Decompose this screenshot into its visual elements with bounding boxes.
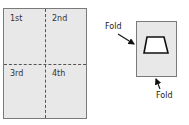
horizontal-fold-line bbox=[4, 64, 86, 65]
quadrant-label-3rd: 3rd bbox=[10, 70, 23, 78]
quartered-sheet: 1st 2nd 3rd 4th bbox=[3, 8, 87, 119]
fold-arrow-bottom-icon bbox=[156, 79, 160, 89]
quadrant-label-4th: 4th bbox=[52, 70, 65, 78]
fold-label-top: Fold bbox=[105, 23, 122, 31]
fold-arrow-top-icon bbox=[118, 34, 134, 44]
folded-sheet bbox=[136, 21, 177, 77]
quadrant-label-1st: 1st bbox=[10, 15, 22, 23]
fold-label-bottom: Fold bbox=[156, 92, 173, 100]
quadrant-label-2nd: 2nd bbox=[52, 15, 67, 23]
